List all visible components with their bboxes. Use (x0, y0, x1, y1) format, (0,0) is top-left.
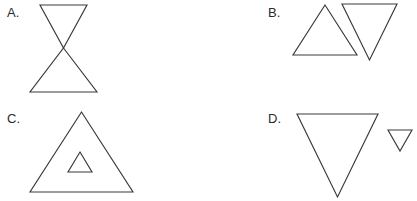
down-triangle-small-d (388, 130, 412, 151)
figure-sheet: A. B. C. D. (0, 0, 417, 201)
figure-a (0, 0, 209, 101)
up-triangle-inner-c (68, 152, 92, 172)
figure-b (209, 0, 417, 101)
figure-c (0, 101, 209, 201)
option-panel-d[interactable]: D. (209, 101, 417, 201)
option-panel-a[interactable]: A. (0, 0, 209, 101)
down-triangle-right-b (342, 4, 397, 60)
down-triangle-large-d (297, 114, 378, 197)
down-triangle-upper-a (40, 5, 87, 48)
option-panel-b[interactable]: B. (209, 0, 417, 101)
figure-d (209, 101, 417, 201)
up-triangle-left-b (293, 5, 357, 55)
up-triangle-lower-a (30, 48, 97, 92)
option-panel-c[interactable]: C. (0, 101, 209, 201)
up-triangle-outer-c (30, 112, 133, 192)
